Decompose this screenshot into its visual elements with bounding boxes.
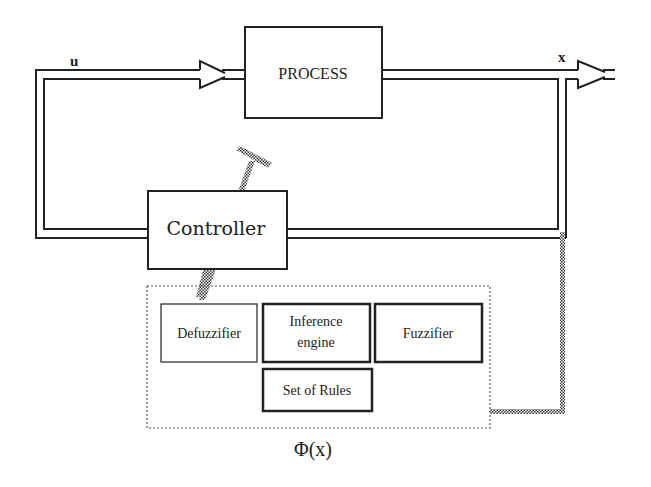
controller-block: Controller (148, 191, 287, 269)
controller-label: Controller (167, 217, 267, 239)
defuzzifier-block: Defuzzifier (161, 304, 257, 362)
inference-label-line1: Inference (290, 314, 343, 329)
fuzzy-system-caption: Φ(x) (294, 438, 332, 461)
input-signal-label: u (70, 53, 78, 69)
rule-base-block: Set of Rules (263, 369, 372, 411)
inference-engine-block: Inference engine (263, 304, 370, 362)
rule-base-label: Set of Rules (283, 383, 351, 398)
fuzzifier-block: Fuzzifier (375, 304, 482, 362)
process-block: PROCESS (245, 27, 382, 118)
input-arrow-icon (200, 61, 225, 88)
fuzzifier-label: Fuzzifier (403, 326, 454, 341)
inference-label-line2: engine (297, 335, 334, 350)
process-label: PROCESS (278, 65, 347, 82)
measurement-feedback-link (490, 232, 565, 414)
output-signal-label: x (558, 49, 566, 65)
fuzzy-control-diagram: u PROCESS x Controller Def (0, 0, 651, 487)
output-arrow-icon (578, 61, 605, 88)
defuzzifier-label: Defuzzifier (177, 326, 241, 341)
